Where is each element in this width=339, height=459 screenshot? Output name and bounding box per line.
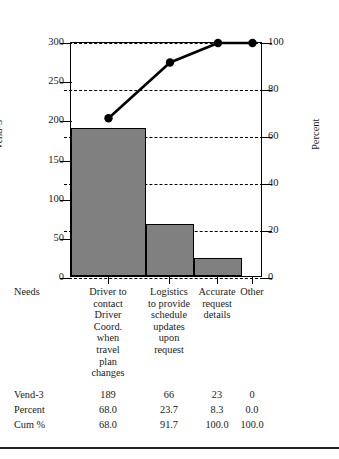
left-axis-tick-300: 300 bbox=[38, 37, 64, 47]
cumulative-percent-line bbox=[71, 43, 263, 278]
cat1-line7: plan bbox=[74, 356, 142, 368]
plot-area bbox=[70, 42, 262, 277]
left-axis-tick-150: 150 bbox=[38, 155, 64, 165]
category-labels: Driver to contact Driver Coord. when tra… bbox=[0, 283, 339, 383]
cat1-line2: contact bbox=[74, 298, 142, 310]
left-axis-tick-250: 250 bbox=[38, 76, 64, 86]
cum-line-path bbox=[109, 43, 253, 118]
table-cell-vend3-1: 189 bbox=[78, 389, 138, 401]
cum-marker-3 bbox=[214, 39, 222, 47]
cat2-line5: upon bbox=[135, 332, 203, 344]
right-axis-tick-80: 80 bbox=[268, 84, 279, 94]
left-axis-tick-200: 200 bbox=[38, 115, 64, 125]
bottom-rule bbox=[0, 447, 339, 449]
cum-marker-4 bbox=[248, 39, 256, 47]
cum-marker-1 bbox=[104, 114, 112, 122]
left-axis-tick-50: 50 bbox=[38, 233, 64, 243]
cat3-line2: request bbox=[186, 298, 248, 310]
cat1-line1: Driver to bbox=[74, 286, 142, 298]
left-tick-0 bbox=[60, 278, 72, 279]
cat1-line4: Coord. bbox=[74, 321, 142, 333]
right-axis-tick-40: 40 bbox=[268, 178, 279, 188]
cat2-line4: updates bbox=[135, 321, 203, 333]
table-row-label-vend3: Vend-3 bbox=[14, 389, 44, 401]
table-cell-vend3-4: 0 bbox=[222, 389, 282, 401]
cum-marker-2 bbox=[166, 58, 174, 66]
table-cell-cum-1: 68.0 bbox=[78, 419, 138, 431]
right-axis-tick-60: 60 bbox=[268, 131, 279, 141]
right-axis-tick-0: 0 bbox=[268, 272, 273, 282]
right-axis-title: Percent bbox=[310, 119, 321, 151]
plot-inner bbox=[71, 43, 261, 276]
table-cell-cum-4: 100.0 bbox=[222, 419, 282, 431]
left-axis-tick-0: 0 bbox=[38, 272, 64, 282]
table-row-label-percent: Percent bbox=[14, 404, 45, 416]
table-cell-percent-4: 0.0 bbox=[222, 404, 282, 416]
table-row-label-cum: Cum % bbox=[14, 419, 45, 431]
cat4-line1: Other bbox=[228, 286, 276, 298]
table-cell-percent-1: 68.0 bbox=[78, 404, 138, 416]
right-axis-tick-100: 100 bbox=[268, 37, 284, 47]
cat1-line3: Driver bbox=[74, 309, 142, 321]
right-axis-tick-labels: 100 80 60 40 20 0 bbox=[268, 42, 296, 277]
cat2-line6: request bbox=[135, 344, 203, 356]
cat1-line6: travel bbox=[74, 344, 142, 356]
gridline-0 bbox=[64, 278, 268, 279]
left-axis-tick-labels: 300 250 200 150 100 50 0 bbox=[38, 42, 64, 277]
left-axis-title: Vend-3 bbox=[0, 120, 4, 150]
right-tick-0 bbox=[260, 278, 272, 279]
category-label-1: Driver to contact Driver Coord. when tra… bbox=[74, 286, 142, 379]
right-axis-tick-20: 20 bbox=[268, 225, 279, 235]
category-label-4: Other bbox=[228, 286, 276, 298]
cat3-line3: details bbox=[186, 309, 248, 321]
pareto-chart-figure: 300 250 200 150 100 50 0 Vend-3 100 80 6… bbox=[0, 0, 339, 459]
cat1-line8: changes bbox=[74, 367, 142, 379]
left-axis-tick-100: 100 bbox=[38, 194, 64, 204]
cat1-line5: when bbox=[74, 332, 142, 344]
